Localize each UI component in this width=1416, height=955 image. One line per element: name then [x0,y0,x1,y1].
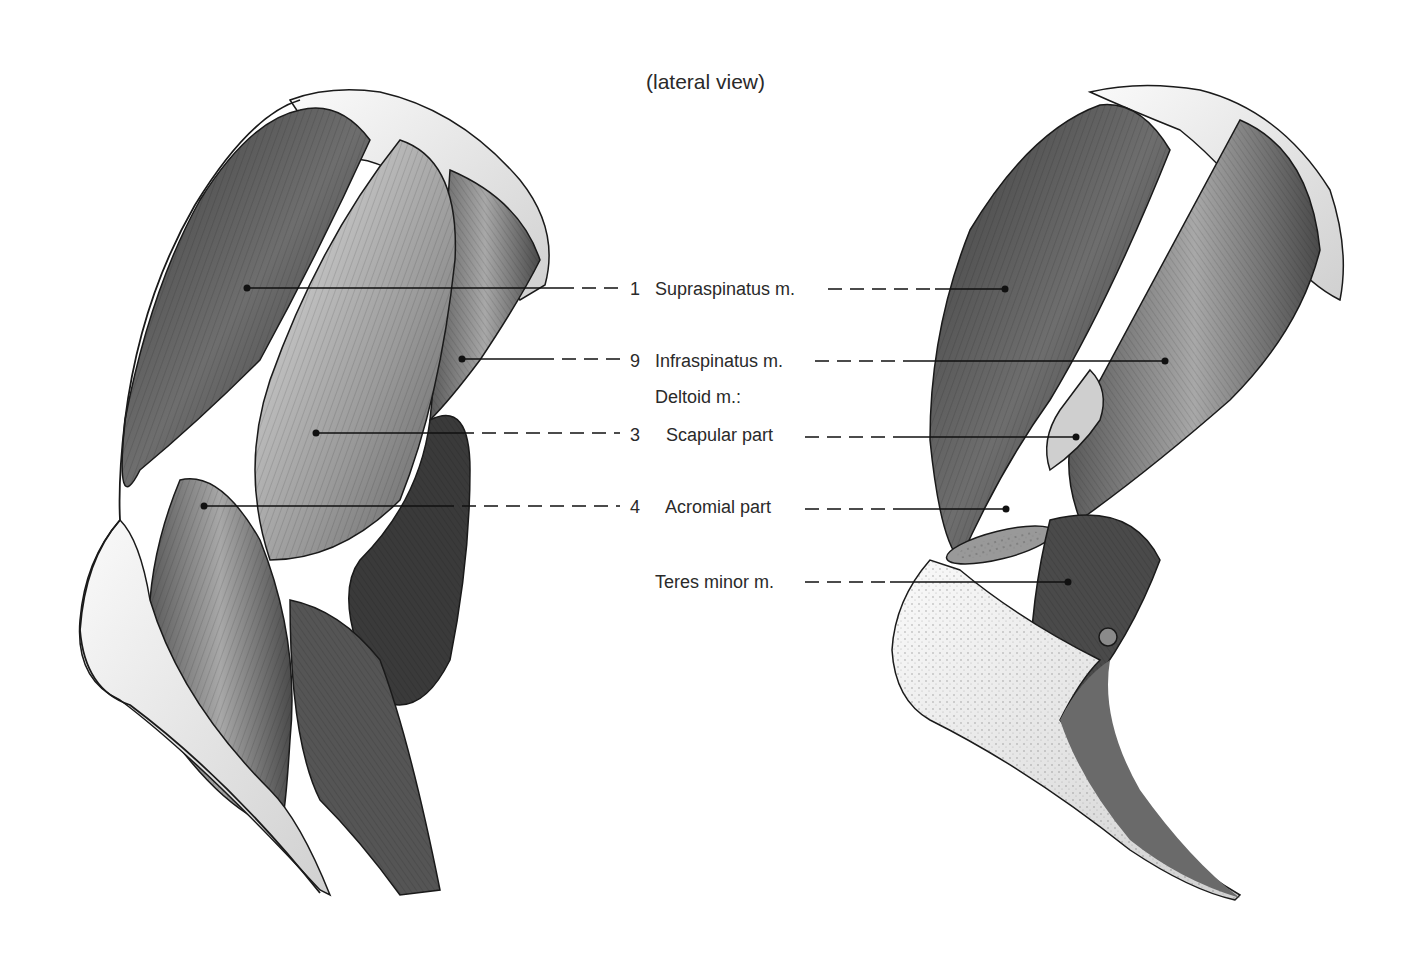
label-deltoid-heading: Deltoid m.: [655,386,741,408]
label-acromial-part: Acromial part [665,496,771,518]
anatomy-illustration [0,0,1416,955]
figure-title: (lateral view) [646,70,765,94]
label-scapular-part: Scapular part [666,424,773,446]
label-number-acromial-part: 4 [630,496,640,518]
label-teres-minor: Teres minor m. [655,571,774,593]
left-shoulder-drawing [80,90,551,895]
label-number-infraspinatus: 9 [630,350,640,372]
right-shoulder-drawing [892,85,1343,900]
label-number-scapular-part: 3 [630,424,640,446]
label-supraspinatus: Supraspinatus m. [655,278,795,300]
label-number-supraspinatus: 1 [630,278,640,300]
right-tubercle [1099,628,1117,646]
label-infraspinatus: Infraspinatus m. [655,350,783,372]
